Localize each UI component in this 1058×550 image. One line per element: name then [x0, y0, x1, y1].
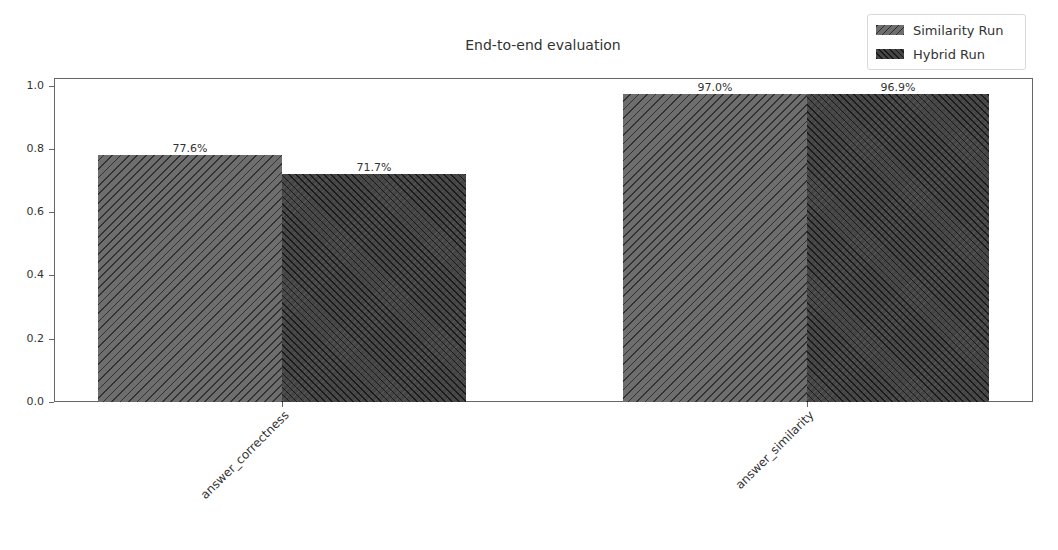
bar-hybrid-answer-correctness [282, 174, 466, 402]
legend-item-hybrid-run: Hybrid Run [876, 47, 985, 61]
x-tick [807, 402, 808, 407]
bar-similarity-answer-correctness [98, 155, 282, 402]
value-label: 96.9% [858, 81, 938, 94]
y-tick [49, 149, 54, 150]
y-tick-label: 0.6 [10, 205, 44, 218]
x-tick [282, 402, 283, 407]
y-tick-label: 0.8 [10, 142, 44, 155]
value-label: 71.7% [334, 161, 414, 174]
y-tick-label: 0.0 [10, 395, 44, 408]
y-tick [49, 339, 54, 340]
value-label: 77.6% [150, 142, 230, 155]
y-tick-label: 0.2 [10, 332, 44, 345]
legend-swatch-hybrid [876, 49, 904, 59]
value-label: 97.0% [675, 81, 755, 94]
bar-hybrid-answer-similarity [807, 94, 989, 402]
legend-label: Hybrid Run [913, 47, 985, 62]
x-tick-label: answer_correctness [198, 408, 292, 502]
y-tick [49, 86, 54, 87]
y-tick [49, 402, 54, 403]
legend-swatch-similarity [876, 25, 904, 35]
legend-item-similarity-run: Similarity Run [876, 23, 1004, 37]
y-tick-label: 1.0 [10, 79, 44, 92]
y-tick [49, 212, 54, 213]
y-tick [49, 275, 54, 276]
x-tick-label: answer_similarity [733, 408, 817, 492]
legend: Similarity Run Hybrid Run [867, 14, 1026, 70]
y-tick-label: 0.4 [10, 268, 44, 281]
legend-label: Similarity Run [913, 23, 1004, 38]
bar-similarity-answer-similarity [623, 94, 807, 402]
